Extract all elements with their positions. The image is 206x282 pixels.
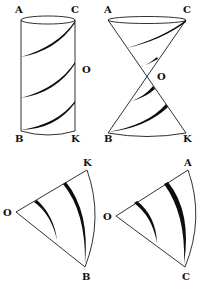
- diagram-canvas: A C O B K A C O B K O K B: [0, 0, 206, 282]
- cone-label-c: C: [183, 4, 191, 15]
- cylinder-label-o: O: [82, 64, 91, 75]
- cylinder-helix-band-1: [21, 21, 75, 57]
- sector-right-figure: O A C: [103, 157, 196, 282]
- sector-right-edge-oc: [116, 216, 185, 267]
- cone-label-b: B: [104, 133, 112, 144]
- sector-right-label-o: O: [103, 211, 112, 222]
- sector-left-label-k: K: [83, 157, 92, 168]
- double-cone-figure: A C O B K: [103, 4, 192, 144]
- sector-left-figure: O K B: [3, 157, 95, 282]
- cylinder-helix-band-3: [21, 101, 75, 130]
- sector-left-label-b: B: [82, 271, 90, 282]
- sector-right-band-outer: [164, 182, 186, 264]
- cylinder-label-b: B: [15, 133, 23, 144]
- sector-right-label-c: C: [182, 271, 190, 282]
- cylinder-top-ellipse: [21, 16, 75, 24]
- cylinder-figure: A C O B K: [14, 4, 91, 144]
- sector-right-label-a: A: [183, 157, 192, 168]
- cylinder-label-a: A: [14, 4, 23, 15]
- cylinder-label-c: C: [71, 4, 79, 15]
- cone-helix-band-1: [127, 20, 186, 48]
- sector-left-band-inner: [34, 200, 57, 240]
- cone-bottom-arc: [108, 133, 186, 137]
- cone-top-ellipse: [108, 17, 186, 24]
- sector-right-outer-arc: [185, 170, 196, 267]
- cylinder-label-k: K: [71, 133, 80, 144]
- cone-label-o: O: [157, 71, 166, 82]
- cone-helix-band-4: [108, 104, 168, 132]
- cone-label-a: A: [103, 4, 112, 15]
- cylinder-bottom-arc: [21, 131, 75, 135]
- sector-right-band-inner: [134, 201, 157, 243]
- sector-left-label-o: O: [3, 207, 12, 218]
- cylinder-helix-band-2: [21, 62, 75, 98]
- cone-label-k: K: [183, 133, 192, 144]
- sector-left-outer-arc: [85, 170, 95, 267]
- cone-helix-band-2: [138, 57, 158, 68]
